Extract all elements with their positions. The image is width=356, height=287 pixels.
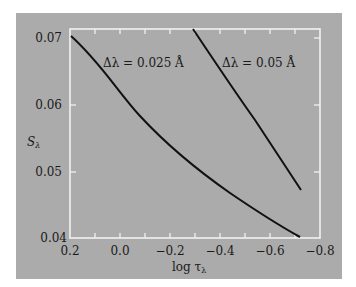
x-tick-label: −0.6 xyxy=(255,244,284,258)
x-tick-label: −0.2 xyxy=(155,244,184,258)
x-tick-label: −0.4 xyxy=(205,244,235,258)
y-axis-label: Sλ xyxy=(27,135,40,150)
y-tick-label: 0.04 xyxy=(40,231,67,245)
y-tick-label: 0.06 xyxy=(35,98,62,112)
annotation-dl-005: Δλ = 0.05 Å xyxy=(222,55,295,70)
x-tick-label: 0.0 xyxy=(110,244,129,258)
annotation-dl-0025: Δλ = 0.025 Å xyxy=(103,55,184,70)
y-tick-label: 0.05 xyxy=(35,165,62,179)
series-dl-005 xyxy=(193,29,301,190)
x-axis-label: log τλ xyxy=(172,260,206,275)
x-tick-label: −0.8 xyxy=(305,244,334,258)
x-tick-label: 0.2 xyxy=(60,244,79,258)
y-tick-label: 0.07 xyxy=(35,31,62,45)
chart: 0.07 0.06 0.05 0.04 0.2 0.0 −0.2 −0.4 −0… xyxy=(0,0,356,287)
